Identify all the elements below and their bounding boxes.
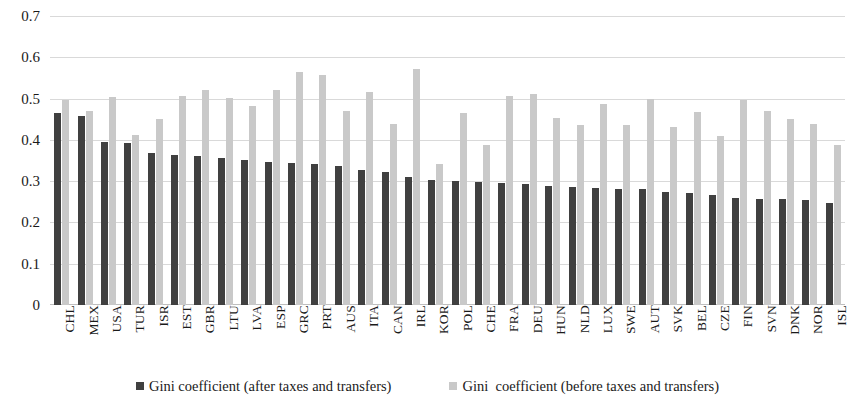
bar-group xyxy=(170,16,187,305)
bar-group xyxy=(731,16,748,305)
bar-before-taxes xyxy=(62,100,69,305)
bar-before-taxes xyxy=(226,98,233,305)
bar-after-taxes xyxy=(452,181,459,305)
legend-item: Gini coefficient (before taxes and trans… xyxy=(449,378,719,394)
bar-before-taxes xyxy=(319,75,326,305)
bar-before-taxes xyxy=(156,119,163,305)
x-axis-tick-label: CHE xyxy=(484,305,498,367)
bar-group xyxy=(474,16,491,305)
bar-after-taxes xyxy=(101,142,108,305)
y-axis-tick-label: 0.6 xyxy=(21,50,40,65)
bar-after-taxes xyxy=(54,113,61,305)
x-axis-tick-label: DNK xyxy=(788,305,802,367)
bar-after-taxes xyxy=(265,162,272,305)
bar-before-taxes xyxy=(740,100,747,305)
bar-after-taxes xyxy=(686,193,693,305)
bar-group xyxy=(287,16,304,305)
bar-group xyxy=(264,16,281,305)
x-axis-tick-label: GBR xyxy=(203,305,217,367)
bar-after-taxes xyxy=(826,203,833,305)
bar-before-taxes xyxy=(834,145,841,305)
legend-item: Gini coefficient (after taxes and transf… xyxy=(136,378,392,394)
bar-group xyxy=(825,16,842,305)
x-axis-tick-label: POL xyxy=(461,305,475,367)
bar-after-taxes xyxy=(405,177,412,305)
bar-group xyxy=(755,16,772,305)
bar-after-taxes xyxy=(78,116,85,306)
bar-before-taxes xyxy=(810,124,817,305)
bar-group xyxy=(685,16,702,305)
bar-group xyxy=(451,16,468,305)
x-axis-tick-label: CZE xyxy=(718,305,732,367)
bar-group xyxy=(357,16,374,305)
bar-before-taxes xyxy=(506,96,513,305)
bar-after-taxes xyxy=(428,180,435,306)
bar-after-taxes xyxy=(241,160,248,305)
bar-group xyxy=(334,16,351,305)
bar-group xyxy=(310,16,327,305)
bar-group xyxy=(217,16,234,305)
bar-after-taxes xyxy=(335,166,342,305)
bar-after-taxes xyxy=(358,170,365,305)
bar-group xyxy=(240,16,257,305)
bar-group xyxy=(591,16,608,305)
bar-after-taxes xyxy=(592,188,599,305)
bar-after-taxes xyxy=(522,184,529,305)
bar-group xyxy=(381,16,398,305)
bar-before-taxes xyxy=(694,112,701,305)
bar-before-taxes xyxy=(249,106,256,305)
bar-before-taxes xyxy=(390,124,397,305)
bar-before-taxes xyxy=(366,92,373,305)
bar-before-taxes xyxy=(202,90,209,305)
bar-group xyxy=(661,16,678,305)
y-axis-tick-label: 0.1 xyxy=(21,256,40,271)
bar-group xyxy=(614,16,631,305)
legend-swatch-icon xyxy=(136,382,144,390)
bar-after-taxes xyxy=(802,200,809,305)
bar-after-taxes xyxy=(382,172,389,305)
bar-after-taxes xyxy=(615,189,622,305)
x-axis-tick-label: BEL xyxy=(695,305,709,367)
bar-after-taxes xyxy=(662,192,669,305)
bar-before-taxes xyxy=(483,145,490,305)
bar-after-taxes xyxy=(218,158,225,305)
bar-after-taxes xyxy=(639,189,646,305)
gini-coefficient-bar-chart: 00.10.20.30.40.50.60.7 CHLMEXUSATURISRES… xyxy=(0,0,855,404)
bar-before-taxes xyxy=(86,111,93,305)
legend-swatch-icon xyxy=(449,382,457,390)
x-axis-tick-label: FRA xyxy=(507,305,521,367)
bar-before-taxes xyxy=(530,94,537,305)
bar-before-taxes xyxy=(670,127,677,305)
x-axis: CHLMEXUSATURISRESTGBRLTULVAESPGRCPRTAUSI… xyxy=(50,307,845,369)
x-axis-tick-label: ISR xyxy=(157,305,171,367)
chart-legend: Gini coefficient (after taxes and transf… xyxy=(0,374,855,398)
bar-group xyxy=(404,16,421,305)
bar-group xyxy=(77,16,94,305)
bar-group xyxy=(53,16,70,305)
x-axis-tick-label: TUR xyxy=(133,305,147,367)
bar-after-taxes xyxy=(709,195,716,305)
bar-after-taxes xyxy=(779,199,786,305)
bar-after-taxes xyxy=(124,143,131,305)
bar-after-taxes xyxy=(545,186,552,305)
bar-group xyxy=(638,16,655,305)
legend-item-label: Gini coefficient (before taxes and trans… xyxy=(462,378,719,394)
bar-before-taxes xyxy=(623,125,630,305)
x-axis-tick-label: NOR xyxy=(811,305,825,367)
bar-before-taxes xyxy=(577,125,584,305)
bar-before-taxes xyxy=(132,135,139,306)
x-axis-tick-label: AUT xyxy=(648,305,662,367)
bar-after-taxes xyxy=(171,155,178,305)
bar-group xyxy=(521,16,538,305)
bar-group xyxy=(778,16,795,305)
x-axis-tick-label: SVN xyxy=(765,305,779,367)
x-axis-tick-label: KOR xyxy=(437,305,451,367)
bar-before-taxes xyxy=(460,113,467,305)
bar-after-taxes xyxy=(311,164,318,305)
y-axis-tick-label: 0.3 xyxy=(21,174,40,189)
y-axis-tick-label: 0.7 xyxy=(21,9,40,24)
x-axis-tick-label: DEU xyxy=(531,305,545,367)
x-axis-tick-label: HUN xyxy=(554,305,568,367)
bar-group xyxy=(708,16,725,305)
bar-group xyxy=(123,16,140,305)
